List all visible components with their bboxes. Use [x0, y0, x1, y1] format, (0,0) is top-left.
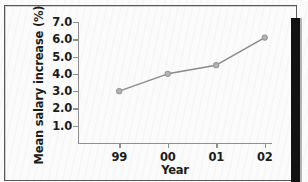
y-axis-title: Mean salary increase (%) — [32, 5, 46, 165]
line-chart: 1.02.03.04.05.06.07.0 99000102 Mean sala… — [0, 0, 308, 182]
x-axis-title: Year — [78, 163, 272, 177]
figure-panel: 1.02.03.04.05.06.07.0 99000102 Mean sala… — [0, 0, 308, 182]
data-series-layer — [0, 0, 308, 182]
data-point-02 — [262, 35, 267, 40]
series-markers — [117, 35, 268, 94]
data-point-00 — [165, 71, 170, 76]
series-line — [119, 38, 265, 92]
data-point-99 — [117, 89, 122, 94]
data-point-01 — [214, 63, 219, 68]
